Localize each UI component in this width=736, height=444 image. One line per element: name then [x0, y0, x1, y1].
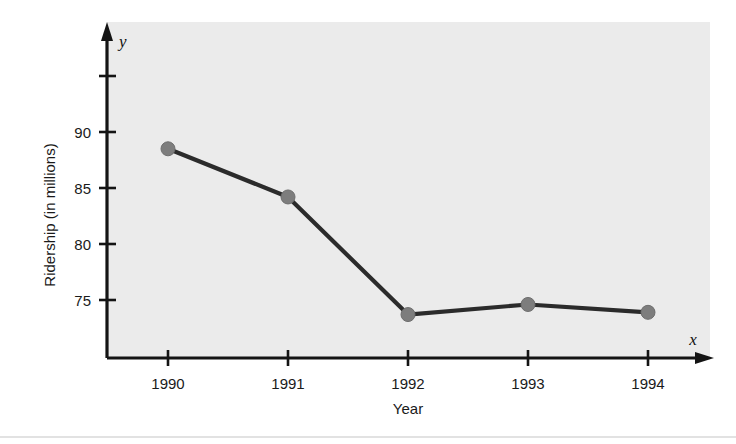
- x-tick-label-1993: 1993: [511, 375, 544, 392]
- x-axis-title: Year: [393, 400, 423, 417]
- line-chart-figure: 90 85 80 75 y Ridership (in millions) 19…: [0, 0, 736, 444]
- y-tick-label-80: 80: [74, 236, 91, 253]
- y-tick-label-90: 90: [74, 124, 91, 141]
- data-point-marker: [641, 305, 655, 319]
- x-axis-variable-label: x: [688, 330, 697, 349]
- x-tick-label-1994: 1994: [631, 375, 664, 392]
- y-tick-label-85: 85: [74, 180, 91, 197]
- x-tick-label-1990: 1990: [151, 375, 184, 392]
- y-axis-variable-label: y: [117, 32, 127, 51]
- y-tick-label-75: 75: [74, 292, 91, 309]
- x-tick-label-1992: 1992: [391, 375, 424, 392]
- data-point-marker: [281, 190, 295, 204]
- data-point-marker: [521, 297, 535, 311]
- data-point-marker: [161, 142, 175, 156]
- data-point-marker: [401, 308, 415, 322]
- chart-svg: 90 85 80 75 y Ridership (in millions) 19…: [0, 0, 736, 444]
- x-tick-label-1991: 1991: [271, 375, 304, 392]
- y-axis-title: Ridership (in millions): [41, 143, 58, 286]
